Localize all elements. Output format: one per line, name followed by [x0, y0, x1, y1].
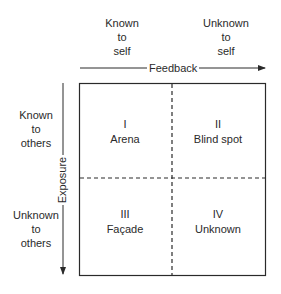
quadrant-name: Façade [80, 222, 170, 237]
label-line: Unknown [186, 16, 266, 30]
quadrant-blind-spot: II Blind spot [173, 117, 263, 147]
quadrant-name: Blind spot [173, 132, 263, 147]
quadrant-unknown: IV Unknown [173, 207, 263, 237]
label-line: Known [6, 108, 66, 122]
label-line: Known [82, 16, 162, 30]
label-line: to [82, 30, 162, 44]
label-line: to [6, 222, 66, 236]
quadrant-arena: I Arena [80, 117, 170, 147]
exposure-label: Exposure [56, 155, 68, 205]
row-label-known-to-others: Known to others [6, 108, 66, 150]
quadrant-numeral: I [80, 117, 170, 132]
label-line: self [186, 44, 266, 58]
quadrant-name: Unknown [173, 222, 263, 237]
column-label-known-to-self: Known to self [82, 16, 162, 58]
label-line: self [82, 44, 162, 58]
quadrant-numeral: III [80, 207, 170, 222]
label-line: others [6, 136, 66, 150]
label-line: Unknown [6, 208, 66, 222]
quadrant-numeral: IV [173, 207, 263, 222]
quadrant-facade: III Façade [80, 207, 170, 237]
label-line: to [6, 122, 66, 136]
row-label-unknown-to-others: Unknown to others [6, 208, 66, 250]
label-line: to [186, 30, 266, 44]
label-line: others [6, 236, 66, 250]
quadrant-numeral: II [173, 117, 263, 132]
column-label-unknown-to-self: Unknown to self [186, 16, 266, 58]
feedback-label: Feedback [147, 62, 199, 74]
quadrant-name: Arena [80, 132, 170, 147]
